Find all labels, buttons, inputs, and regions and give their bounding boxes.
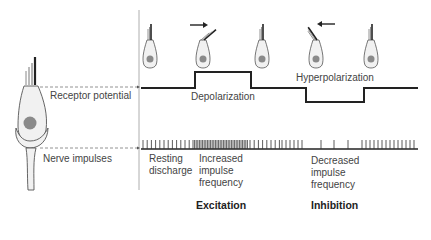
receptor-potential-label: Receptor potential [50, 90, 131, 102]
increased-line2: impulse [199, 165, 243, 177]
resting-discharge-label: Resting discharge [149, 153, 192, 177]
right-arrow-icon [190, 22, 208, 28]
increased-line1: Increased [199, 153, 243, 165]
increased-line3: frequency [199, 177, 243, 189]
hair-cell-row [143, 24, 378, 68]
excitation-label: Excitation [196, 199, 246, 211]
hyperpolarization-label: Hyperpolarization [296, 72, 374, 84]
resting-line1: Resting [149, 153, 192, 165]
hair-cell-icon [364, 24, 378, 68]
hair-cell-icon [308, 27, 323, 68]
decreased-line2: impulse [311, 167, 359, 179]
nerve-impulses-label: Nerve impulses [43, 153, 112, 165]
resting-line2: discharge [149, 165, 192, 177]
left-arrow-icon [317, 21, 335, 27]
decreased-line3: frequency [311, 179, 359, 191]
inhibition-label: Inhibition [311, 199, 358, 211]
hair-cell-large-icon [16, 57, 48, 190]
decreased-line1: Decreased [311, 155, 359, 167]
increased-frequency-label: Increased impulse frequency [199, 153, 243, 189]
decreased-frequency-label: Decreased impulse frequency [311, 155, 359, 191]
nerve-impulse-spikes [143, 140, 414, 149]
hair-cell-icon [196, 30, 216, 68]
receptor-potential-trace [141, 72, 418, 102]
hair-cell-icon [143, 24, 157, 68]
hair-cell-icon [255, 24, 269, 68]
depolarization-label: Depolarization [191, 91, 255, 103]
